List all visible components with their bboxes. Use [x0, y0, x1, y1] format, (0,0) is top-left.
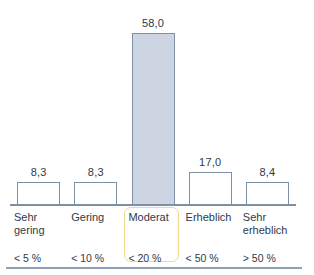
- category-name-line2: gering: [14, 224, 45, 236]
- category-label-erheblich[interactable]: Erheblich < 50 %: [182, 207, 239, 265]
- category-name-line2: erheblich: [243, 224, 288, 236]
- category-range: > 50 %: [243, 252, 276, 264]
- category-name: Moderat: [128, 207, 181, 224]
- category-range: < 20 %: [128, 252, 161, 264]
- category-label-sehr-gering[interactable]: Sehr gering < 5 %: [10, 207, 67, 265]
- bar-erheblich[interactable]: [189, 172, 232, 204]
- bar-value-label: 58,0: [142, 17, 164, 30]
- plot-area: 8,3 8,3 58,0 17,0 8,4: [0, 0, 314, 207]
- bar-sehr-gering[interactable]: [17, 182, 60, 204]
- bar-column-gering[interactable]: 8,3: [67, 0, 124, 204]
- bar-column-erheblich[interactable]: 17,0: [182, 0, 239, 204]
- category-label-moderat[interactable]: Moderat < 20 %: [124, 207, 181, 265]
- category-label-sehr-erheblich[interactable]: Sehr erheblich > 50 %: [239, 207, 296, 265]
- bar-column-sehr-erheblich[interactable]: 8,4: [239, 0, 296, 204]
- bar-value-label: 8,3: [88, 166, 104, 179]
- category-name: Sehr gering: [14, 207, 67, 236]
- category-name-line1: Sehr: [14, 211, 37, 223]
- category-name: Erheblich: [186, 207, 239, 224]
- category-name-line1: Erheblich: [186, 211, 232, 223]
- category-name: Gering: [71, 207, 124, 224]
- bar-gering[interactable]: [74, 182, 117, 204]
- category-label-gering[interactable]: Gering < 10 %: [67, 207, 124, 265]
- bar-value-label: 17,0: [199, 156, 221, 169]
- category-name: Sehr erheblich: [243, 207, 296, 236]
- category-range: < 10 %: [71, 252, 104, 264]
- bar-column-moderat[interactable]: 58,0: [124, 0, 181, 204]
- x-axis-line: [10, 204, 296, 206]
- bars-row: 8,3 8,3 58,0 17,0 8,4: [10, 0, 296, 204]
- category-name-line1: Gering: [71, 211, 104, 223]
- bar-sehr-erheblich[interactable]: [246, 182, 289, 204]
- bar-moderat[interactable]: [132, 33, 175, 204]
- category-range: < 5 %: [14, 252, 41, 264]
- bar-column-sehr-gering[interactable]: 8,3: [10, 0, 67, 204]
- bottom-divider: [6, 267, 302, 269]
- category-labels-row: Sehr gering < 5 % Gering < 10 % Moderat …: [10, 207, 296, 265]
- category-range: < 50 %: [186, 252, 219, 264]
- category-name-line1: Moderat: [128, 211, 168, 223]
- bar-chart: 8,3 8,3 58,0 17,0 8,4: [0, 0, 314, 275]
- bar-value-label: 8,3: [31, 166, 47, 179]
- bar-value-label: 8,4: [259, 166, 275, 179]
- category-name-line1: Sehr: [243, 211, 266, 223]
